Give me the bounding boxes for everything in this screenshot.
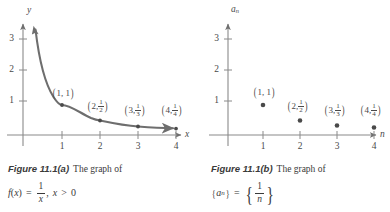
caption-a-text: The graph of — [73, 164, 122, 174]
y-axis-label-b-subscript: n — [236, 7, 239, 14]
point-y: 1 — [66, 88, 71, 98]
point-label-a-4: (4,14) — [161, 103, 182, 119]
fraction: 14 — [172, 103, 178, 119]
caption-a-figure-number: Figure 11.1(a) — [8, 163, 69, 174]
point-marker-b-4 — [372, 125, 377, 130]
y-tick-label-3-a: 3 — [6, 34, 17, 44]
figure-11-1: y x 3 2 1 1 2 3 4 (1, 1) (2,12) (3,13) (… — [0, 0, 390, 212]
point-marker-b-1 — [261, 103, 266, 108]
point-x: 3, — [329, 105, 336, 115]
point-label-a-3: (3,13) — [124, 103, 145, 119]
plot-area-a — [0, 0, 195, 160]
y-axis-label-b: an — [231, 5, 239, 15]
point-label-b-1: (1, 1) — [253, 88, 276, 97]
fraction: 13 — [335, 103, 341, 119]
formula-a-domain-var: x — [53, 187, 57, 200]
y-tick-label-1-b: 1 — [211, 96, 222, 106]
denominator: 3 — [335, 110, 341, 118]
y-tick-label-3-b: 3 — [211, 34, 222, 44]
caption-b-figure-number: Figure 11.1(b) — [211, 163, 273, 174]
formula-b-seq-subscript: n — [221, 189, 225, 198]
x-tick-label-3-a: 3 — [132, 142, 144, 152]
denominator: 2 — [98, 106, 104, 114]
point-x: 4, — [166, 105, 173, 115]
formula-a-equals: = — [26, 187, 32, 200]
formula-b-equals: = — [234, 187, 240, 200]
point-marker-a-4 — [174, 127, 178, 131]
formula-a: f(x)=1x,x>0 — [8, 180, 192, 206]
numerator: 1 — [335, 103, 341, 110]
point-x: 4, — [365, 105, 372, 115]
point-label-b-3: (3,13) — [324, 103, 345, 119]
denominator: n — [255, 193, 264, 205]
caption-b-line1: Figure 11.1(b)The graph of — [211, 163, 390, 176]
fraction: 14 — [371, 103, 377, 119]
caption-a-line1: Figure 11.1(a)The graph of — [8, 163, 192, 176]
point-marker-b-2 — [298, 118, 303, 123]
point-marker-a-3 — [136, 125, 140, 129]
point-y: 1 — [267, 87, 272, 97]
numerator: 1 — [298, 99, 304, 106]
point-label-b-2: (2,12) — [287, 99, 308, 115]
numerator: 1 — [37, 182, 46, 193]
formula-b: {an}={1n} — [211, 180, 390, 206]
fraction: 12 — [298, 99, 304, 115]
caption-a-line2: f(x)=1x,x>0 — [8, 180, 192, 208]
denominator: 4 — [172, 110, 178, 118]
formula-a-comma: , — [46, 187, 49, 200]
fraction: 12 — [98, 99, 104, 115]
formula-a-domain-val: 0 — [71, 187, 76, 200]
x-tick-label-2-a: 2 — [94, 142, 106, 152]
numerator: 1 — [98, 99, 104, 106]
point-x: 1, — [258, 87, 265, 97]
x-tick-label-4-b: 4 — [368, 142, 380, 152]
point-marker-b-3 — [335, 123, 340, 128]
caption-b-line2: {an}={1n} — [211, 180, 390, 208]
point-label-b-4: (4,14) — [360, 103, 381, 119]
point-x: 1, — [57, 88, 64, 98]
numerator: 1 — [135, 103, 141, 110]
x-tick-label-1-b: 1 — [257, 142, 269, 152]
formula-a-fraction: 1x — [37, 182, 46, 204]
panel-figure-11-1a: y x 3 2 1 1 2 3 4 (1, 1) (2,12) (3,13) (… — [0, 0, 195, 212]
numerator: 1 — [371, 103, 377, 110]
fraction: 13 — [135, 103, 141, 119]
numerator: 1 — [172, 103, 178, 110]
y-tick-label-2-b: 2 — [211, 65, 222, 75]
point-x: 3, — [129, 105, 136, 115]
point-marker-a-2 — [98, 119, 102, 123]
y-tick-label-2-a: 2 — [6, 65, 17, 75]
y-tick-label-1-a: 1 — [6, 96, 17, 106]
x-tick-label-1-a: 1 — [56, 142, 68, 152]
numerator: 1 — [255, 182, 264, 193]
x-tick-label-4-a: 4 — [170, 142, 182, 152]
caption-b-text: The graph of — [277, 164, 326, 174]
point-label-a-1: (1, 1) — [52, 89, 75, 98]
formula-a-domain-rel: > — [61, 187, 67, 200]
formula-b-fraction: 1n — [255, 182, 264, 204]
formula-a-rparen: ) — [19, 187, 22, 200]
denominator: 4 — [371, 110, 377, 118]
x-axis-label-b: n — [380, 130, 385, 140]
x-axis-label-a: x — [185, 130, 189, 140]
x-tick-label-2-b: 2 — [294, 142, 306, 152]
denominator: 2 — [298, 106, 304, 114]
point-marker-a-1 — [60, 103, 64, 107]
panel-figure-11-1b: an n 3 2 1 1 2 3 4 (1, 1) (2,12) (3,13) … — [195, 0, 390, 212]
denominator: 3 — [135, 110, 141, 118]
point-x: 2, — [92, 101, 99, 111]
point-label-a-2: (2,12) — [87, 99, 108, 115]
denominator: x — [37, 193, 46, 205]
point-x: 2, — [292, 101, 299, 111]
x-tick-label-3-b: 3 — [331, 142, 343, 152]
y-axis-label-a: y — [27, 6, 31, 16]
plot-area-b — [195, 0, 390, 160]
